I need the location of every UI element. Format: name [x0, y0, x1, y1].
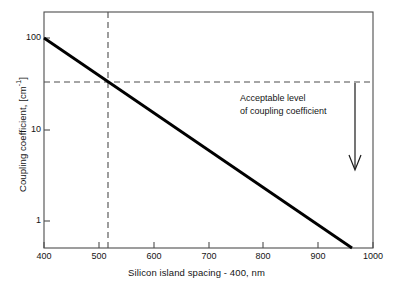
- x-tick-label: 1000: [353, 251, 393, 261]
- annotation-line-1: Acceptable level: [240, 92, 358, 105]
- y-axis-title-exponent: -1: [15, 80, 22, 86]
- y-axis-title-suffix: ]: [17, 77, 28, 80]
- x-tick-label: 700: [189, 251, 229, 261]
- x-tick-label: 900: [298, 251, 338, 261]
- acceptable-level-annotation: Acceptable level of coupling coefficient: [240, 92, 358, 117]
- annotation-line-2: of coupling coefficient: [240, 105, 358, 118]
- chart-figure: 400 500 600 700 800 900 1000 100 10 1 Si…: [0, 0, 393, 284]
- x-axis-title: Silicon island spacing - 400, nm: [0, 267, 393, 278]
- x-tick-label: 800: [243, 251, 283, 261]
- x-tick-label: 600: [134, 251, 174, 261]
- y-axis-title: Coupling coefficient, [cm-1]: [17, 40, 28, 230]
- chart-plot-svg: [0, 0, 393, 284]
- y-axis-title-base: Coupling coefficient, [cm: [17, 86, 28, 192]
- x-tick-label: 400: [24, 251, 64, 261]
- x-tick-label: 500: [79, 251, 119, 261]
- plot-frame: [44, 12, 373, 248]
